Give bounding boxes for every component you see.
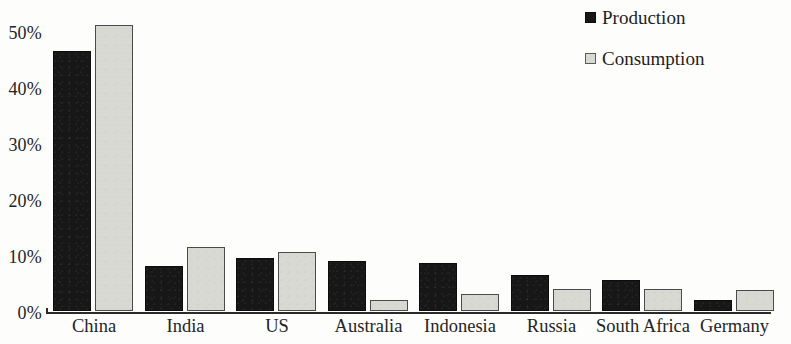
x-axis-category-label: Germany: [700, 316, 769, 336]
bar-group: [328, 0, 408, 313]
x-axis-category-label: US: [265, 316, 289, 336]
bar-consumption[interactable]: [461, 294, 499, 311]
x-axis-category-label: Australia: [335, 316, 403, 336]
x-axis-category-label: Indonesia: [424, 316, 496, 336]
bar-production[interactable]: [694, 300, 732, 311]
x-axis-category-label: South Africa: [596, 316, 690, 336]
legend-item-consumption[interactable]: Consumption: [585, 49, 785, 68]
bar-production[interactable]: [328, 261, 366, 311]
x-axis-category-label: Russia: [527, 316, 576, 336]
x-axis-category-label: India: [166, 316, 204, 336]
bar-group: [236, 0, 316, 313]
consumption-swatch-icon: [585, 53, 596, 64]
bar-production[interactable]: [511, 275, 549, 311]
x-axis-line: [46, 312, 771, 314]
bar-production[interactable]: [602, 280, 640, 311]
bar-production[interactable]: [419, 263, 457, 311]
bar-group: [511, 0, 591, 313]
bar-consumption[interactable]: [95, 25, 133, 311]
bar-group: [53, 0, 133, 313]
bar-consumption[interactable]: [278, 252, 316, 311]
bar-chart: 0%10%20%30%40%50% Production Consumption…: [0, 0, 791, 344]
bar-consumption[interactable]: [370, 300, 408, 311]
y-axis-zero-tick: [46, 308, 48, 314]
x-axis-category-label: China: [72, 316, 116, 336]
legend: Production Consumption: [585, 8, 785, 90]
bar-group: [419, 0, 499, 313]
bar-consumption[interactable]: [553, 289, 591, 311]
legend-item-production[interactable]: Production: [585, 8, 785, 27]
bar-consumption[interactable]: [187, 247, 225, 311]
bar-production[interactable]: [53, 51, 91, 311]
legend-label-consumption: Consumption: [602, 49, 704, 68]
legend-label-production: Production: [602, 8, 685, 27]
bar-production[interactable]: [236, 258, 274, 311]
bar-production[interactable]: [145, 266, 183, 311]
production-swatch-icon: [585, 12, 596, 23]
bar-consumption[interactable]: [736, 290, 774, 311]
bar-group: [145, 0, 225, 313]
bar-consumption[interactable]: [644, 289, 682, 311]
